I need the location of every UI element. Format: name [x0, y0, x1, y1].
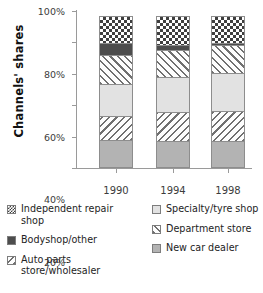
x-tick-mark	[228, 168, 229, 173]
bar-segment	[156, 141, 190, 168]
bar-segment	[99, 55, 133, 85]
bar-segment	[99, 116, 133, 141]
bar-segment	[156, 112, 190, 142]
y-tick-mark: 60%	[72, 74, 77, 75]
bar-segment	[156, 16, 190, 46]
legend-item-label: Department store	[166, 223, 251, 235]
legend-item-label: Independent repair shop	[21, 203, 137, 226]
stacked-bar	[99, 16, 133, 168]
y-axis-title: Channels' shares	[12, 16, 26, 146]
legend-item-label: New car dealer	[166, 242, 239, 254]
legend-column-right: Specialty/tyre shopDepartment storeNew c…	[152, 203, 262, 262]
y-tick-label: 100%	[38, 6, 65, 17]
bar-segment	[211, 141, 245, 168]
bar-segment	[156, 77, 190, 113]
bar-segment	[99, 84, 133, 117]
y-tick-label: 60%	[44, 131, 65, 142]
legend-swatch-icon	[152, 225, 161, 234]
bar-segment	[211, 45, 245, 73]
stacked-bar	[156, 16, 190, 168]
bar-segment	[99, 140, 133, 168]
legend-swatch-icon	[7, 205, 16, 214]
legend-item-label: Auto parts store/wholesaler	[21, 254, 137, 277]
y-tick-mark: 40%	[72, 105, 77, 106]
legend-swatch-icon	[152, 205, 161, 214]
legend-swatch-icon	[152, 244, 161, 253]
legend-item-label: Specialty/tyre shop	[166, 203, 258, 215]
y-tick-mark: 80%	[72, 42, 77, 43]
legend-item[interactable]: Auto parts store/wholesaler	[7, 254, 137, 277]
y-tick-label: 80%	[44, 68, 65, 79]
legend-swatch-icon	[7, 236, 16, 245]
x-tick-label: 1990	[103, 185, 128, 196]
legend-item[interactable]: Department store	[152, 223, 262, 235]
legend-item[interactable]: Bodyshop/other	[7, 234, 137, 246]
bar-segment	[211, 111, 245, 142]
bar-segment	[211, 73, 245, 112]
chart-figure: Channels' shares 100%80%60%40%20%0% 1990…	[0, 0, 263, 293]
legend-column-left: Independent repair shopBodyshop/otherAut…	[7, 203, 137, 285]
legend: Independent repair shopBodyshop/otherAut…	[0, 200, 263, 293]
bar-segment	[156, 50, 190, 78]
x-axis-line	[76, 168, 252, 169]
y-tick-mark: 20%	[72, 137, 77, 138]
y-tick-mark: 0%	[72, 168, 77, 169]
legend-item[interactable]: New car dealer	[152, 242, 262, 254]
legend-item[interactable]: Specialty/tyre shop	[152, 203, 262, 215]
x-tick-label: 1994	[160, 185, 185, 196]
bar-segment	[99, 16, 133, 44]
y-axis-line	[76, 10, 77, 169]
chart-area: Channels' shares 100%80%60%40%20%0% 1990…	[0, 0, 263, 196]
stacked-bar	[211, 16, 245, 168]
plot-region: 100%80%60%40%20%0% 199019941998	[76, 11, 251, 168]
x-tick-mark	[116, 168, 117, 173]
x-tick-mark	[173, 168, 174, 173]
y-tick-mark: 100%	[72, 11, 77, 12]
x-tick-label: 1998	[215, 185, 240, 196]
legend-item-label: Bodyshop/other	[21, 234, 97, 246]
bar-segment	[211, 16, 245, 44]
legend-item[interactable]: Independent repair shop	[7, 203, 137, 226]
legend-swatch-icon	[7, 256, 16, 265]
